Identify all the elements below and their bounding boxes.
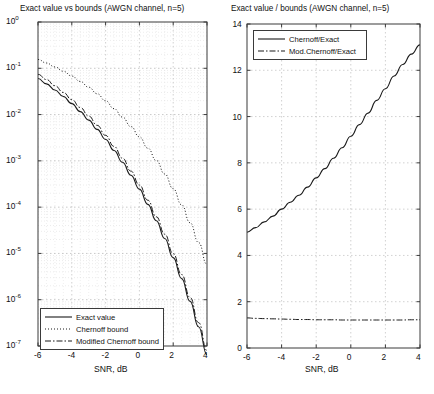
x-tick-label: 0 (135, 350, 140, 360)
left-x-axis-label: SNR, dB (94, 364, 127, 374)
y-tick-label: 0 (237, 343, 242, 353)
right-x-axis-label: SNR, dB (305, 364, 338, 374)
legend-line-sample (45, 312, 72, 322)
legend-item: Chernoff bound (41, 323, 163, 335)
left-plot-title: Exact value vs bounds (AWGN channel, n=5… (20, 4, 184, 13)
series-line-0 (247, 45, 420, 232)
x-tick-label: -2 (102, 350, 109, 360)
legend-line-sample (258, 46, 285, 56)
legend-line-sample (258, 34, 285, 44)
x-tick-label: 2 (169, 350, 174, 360)
x-tick-label: 4 (416, 352, 421, 362)
y-tick-label: 10-6 (6, 294, 21, 304)
x-tick-label: -2 (312, 352, 319, 362)
y-tick-label: 10 (232, 112, 241, 122)
y-tick-label: 12 (232, 65, 241, 75)
x-tick-label: 2 (381, 352, 386, 362)
legend-label: Modified Chernoff bound (76, 337, 159, 346)
y-tick-label: 6 (237, 204, 242, 214)
y-tick-label: 10-7 (6, 340, 21, 350)
y-tick-label: 10-4 (6, 201, 21, 211)
right-plot-legend: Chernoff/ExactMod.Chernoff/Exact (253, 30, 367, 60)
y-tick-label: 10-3 (6, 155, 21, 165)
x-tick-label: 4 (203, 350, 208, 360)
legend-label: Exact value (76, 313, 115, 322)
y-tick-label: 8 (237, 158, 242, 168)
right-plot-panel: Exact value / bounds (AWGN channel, n=5)… (217, 0, 434, 394)
x-tick-label: -6 (34, 350, 41, 360)
y-tick-label: 2 (237, 297, 242, 307)
series-line-1 (247, 318, 420, 320)
x-tick-label: -4 (278, 352, 285, 362)
left-plot-panel: Exact value vs bounds (AWGN channel, n=5… (0, 0, 217, 394)
figure-canvas: Exact value vs bounds (AWGN channel, n=5… (0, 0, 434, 394)
legend-item: Exact value (41, 311, 163, 323)
y-tick-label: 100 (6, 16, 19, 26)
left-plot-legend: Exact valueChernoff boundModified Cherno… (40, 308, 164, 350)
y-tick-label: 4 (237, 250, 242, 260)
x-tick-label: -4 (68, 350, 75, 360)
x-tick-label: 0 (347, 352, 352, 362)
x-tick-label: -6 (243, 352, 250, 362)
legend-line-sample (45, 324, 72, 334)
legend-label: Chernoff bound (76, 325, 128, 334)
legend-item: Chernoff/Exact (254, 33, 366, 45)
legend-label: Chernoff/Exact (289, 35, 339, 44)
right-plot-title: Exact value / bounds (AWGN channel, n=5) (231, 4, 389, 13)
legend-label: Mod.Chernoff/Exact (289, 47, 356, 56)
y-tick-label: 14 (232, 19, 241, 29)
legend-item: Modified Chernoff bound (41, 335, 163, 347)
legend-line-sample (45, 336, 72, 346)
y-tick-label: 10-5 (6, 247, 21, 257)
y-tick-label: 10-2 (6, 109, 21, 119)
y-tick-label: 10-1 (6, 62, 21, 72)
legend-item: Mod.Chernoff/Exact (254, 45, 366, 57)
